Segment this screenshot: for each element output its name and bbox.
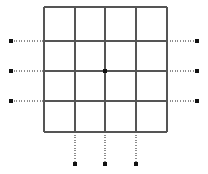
right-marker-3 <box>195 99 199 103</box>
mesh-svg-canvas <box>0 0 208 174</box>
bottom-marker-1 <box>73 162 77 166</box>
bottom-marker-2 <box>103 162 107 166</box>
center-node-group <box>103 69 107 73</box>
right-marker-2 <box>195 69 199 73</box>
left-marker-2 <box>9 69 13 73</box>
center-node-marker <box>103 69 107 73</box>
bottom-marker-3 <box>134 162 138 166</box>
figure-background <box>0 0 208 174</box>
right-marker-1 <box>195 39 199 43</box>
left-marker-3 <box>9 99 13 103</box>
left-marker-1 <box>9 39 13 43</box>
mesh-diagram-figure <box>0 0 208 174</box>
